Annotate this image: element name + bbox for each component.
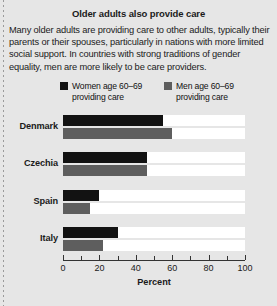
legend-item-women: Women age 60–69 providing care <box>60 81 142 102</box>
bar-group-czechia: Czechia <box>0 151 277 179</box>
bar-group-spain: Spain <box>0 189 277 217</box>
legend-label-men: Men age 60–69 providing care <box>176 81 234 102</box>
x-tick <box>172 255 173 260</box>
x-axis <box>63 260 245 261</box>
x-tick <box>227 256 228 260</box>
bar-men-denmark <box>63 128 172 139</box>
chart-legend: Women age 60–69 providing care Men age 6… <box>60 81 260 107</box>
x-tick <box>190 256 191 260</box>
bar-track <box>63 190 245 201</box>
bar-track <box>63 227 245 238</box>
x-tick <box>245 255 246 260</box>
bar-track <box>63 203 245 214</box>
category-label-czechia: Czechia <box>0 158 58 168</box>
x-tick-label: 80 <box>194 263 224 273</box>
category-label-spain: Spain <box>0 196 58 206</box>
bar-men-spain <box>63 203 90 214</box>
bar-men-czechia <box>63 165 147 176</box>
chart-title: Older adults also provide care <box>0 8 277 19</box>
category-label-italy: Italy <box>0 233 58 243</box>
x-tick-label: 40 <box>121 263 151 273</box>
x-tick-label: 100 <box>230 263 260 273</box>
chart-figure: Older adults also provide care Many olde… <box>0 0 277 306</box>
legend-swatch-women-icon <box>60 82 68 90</box>
bar-women-spain <box>63 190 99 201</box>
x-tick-label: 0 <box>48 263 78 273</box>
bar-women-denmark <box>63 115 163 126</box>
x-tick <box>136 255 137 260</box>
bar-track <box>63 165 245 176</box>
category-label-denmark: Denmark <box>0 121 58 131</box>
bar-track <box>63 115 245 126</box>
bar-track <box>63 128 245 139</box>
top-strip <box>0 0 277 5</box>
chart-description: Many older adults are providing care to … <box>9 24 270 73</box>
legend-item-men: Men age 60–69 providing care <box>164 81 234 102</box>
bar-group-denmark: Denmark <box>0 114 277 142</box>
x-axis-title: Percent <box>63 277 245 287</box>
x-tick <box>99 255 100 260</box>
bar-women-italy <box>63 227 118 238</box>
x-tick-label: 20 <box>84 263 114 273</box>
plot-area: Denmark Czechia Spain <box>0 110 277 306</box>
x-tick <box>209 255 210 260</box>
x-tick-label: 60 <box>157 263 187 273</box>
bar-track <box>63 240 245 251</box>
x-tick <box>81 256 82 260</box>
legend-label-women: Women age 60–69 providing care <box>72 81 142 102</box>
x-tick <box>63 255 64 260</box>
bar-men-italy <box>63 240 103 251</box>
legend-swatch-men-icon <box>164 82 172 90</box>
bar-women-czechia <box>63 152 147 163</box>
x-tick <box>118 256 119 260</box>
bar-group-italy: Italy <box>0 226 277 254</box>
x-tick <box>154 256 155 260</box>
bar-track <box>63 152 245 163</box>
